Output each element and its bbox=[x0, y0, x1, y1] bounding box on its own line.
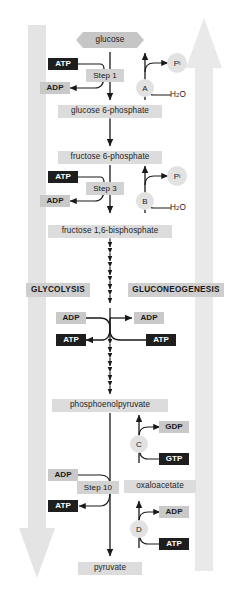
bypass-label-d: D bbox=[130, 520, 148, 538]
cofactor-adp-step1: ADP bbox=[40, 82, 70, 94]
bypass-label-a: A bbox=[136, 79, 154, 97]
bypass-label-b: B bbox=[136, 192, 154, 210]
phase-label-glycolysis: GLYCOLYSIS bbox=[26, 283, 90, 297]
cofactor-adp-mid-right: ADP bbox=[134, 312, 164, 324]
byproduct-water-b: H2O bbox=[170, 202, 186, 214]
cofactor-adp-step10: ADP bbox=[48, 469, 78, 481]
arrow-step10-atp bbox=[79, 492, 110, 506]
cofactor-atp-step3: ATP bbox=[48, 171, 78, 183]
byproduct-water-a: H2O bbox=[170, 89, 186, 101]
bypass-label-c: C bbox=[130, 435, 148, 453]
arrow-b-to-pi bbox=[145, 176, 168, 185]
pathway-diagram: glucose ATP ADP Step 1 A Pi H2O glucose … bbox=[0, 0, 232, 596]
cofactor-atp-mid-right: ATP bbox=[146, 334, 176, 346]
metabolite-pyruvate: pyruvate bbox=[78, 562, 142, 575]
pi-a-subscript: i bbox=[179, 60, 180, 66]
arrow-a-to-pi bbox=[145, 63, 168, 72]
arrow-adp-left-in bbox=[86, 318, 110, 340]
cofactor-atp-step10: ATP bbox=[48, 500, 78, 512]
cofactor-atp-mid-left: ATP bbox=[56, 334, 86, 346]
metabolite-fructose-6-phosphate: fructose 6-phosphate bbox=[58, 151, 162, 164]
phase-label-gluconeogenesis: GLUCONEOGENESIS bbox=[128, 283, 224, 297]
cofactor-adp-step3: ADP bbox=[40, 195, 70, 207]
enzyme-step-1: Step 1 bbox=[86, 69, 124, 82]
cofactor-atp-d: ATP bbox=[159, 538, 189, 550]
cofactor-gtp-c: GTP bbox=[159, 453, 189, 465]
byproduct-pi-b: Pi bbox=[167, 166, 187, 186]
cofactor-atp-step1: ATP bbox=[48, 58, 78, 70]
cofactor-gdp-c: GDP bbox=[159, 421, 189, 433]
metabolite-oxaloacetate: oxaloacetate bbox=[124, 480, 196, 493]
cofactor-adp-d: ADP bbox=[159, 506, 189, 518]
metabolite-glucose-6-phosphate: glucose 6-phosphate bbox=[58, 105, 162, 118]
metabolite-phosphoenolpyruvate: phosphoenolpyruvate bbox=[52, 399, 168, 412]
diagram-canvas bbox=[0, 0, 232, 596]
glycolysis-direction-arrow bbox=[19, 25, 55, 578]
pi-b-subscript: i bbox=[179, 173, 180, 179]
metabolite-fructose-1-6-bisphosphate: fructose 1,6-bisphosphate bbox=[48, 225, 172, 238]
arrow-atp-left-out bbox=[86, 308, 110, 340]
byproduct-pi-a: Pi bbox=[167, 53, 187, 73]
metabolite-glucose: glucose bbox=[76, 32, 144, 48]
water-b-o: O bbox=[179, 204, 185, 212]
enzyme-step-10: Step 10 bbox=[77, 481, 119, 494]
enzyme-step-3: Step 3 bbox=[86, 182, 124, 195]
cofactor-adp-mid-left: ADP bbox=[56, 312, 86, 324]
water-a-o: O bbox=[179, 91, 185, 99]
